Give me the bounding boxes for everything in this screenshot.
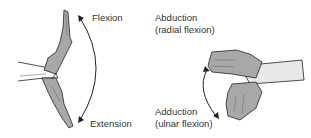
label-adduction: Adduction <box>155 106 197 117</box>
label-ulnar-flexion: (ulnar flexion) <box>155 118 213 129</box>
hand-flexed-up <box>44 10 72 74</box>
flexion-extension-arrow <box>78 15 96 123</box>
wrist-motion-diagram: Flexion Extension Abduction (radial flex… <box>0 0 311 138</box>
label-flexion: Flexion <box>92 12 123 23</box>
hand-abducted <box>208 50 262 78</box>
label-abduction: Abduction <box>155 12 197 23</box>
label-radial-flexion: (radial flexion) <box>155 24 215 35</box>
abduction-adduction-arrow <box>203 66 219 119</box>
hand-adducted <box>226 82 262 120</box>
hand-extended-down <box>42 78 73 128</box>
label-extension: Extension <box>90 118 132 129</box>
